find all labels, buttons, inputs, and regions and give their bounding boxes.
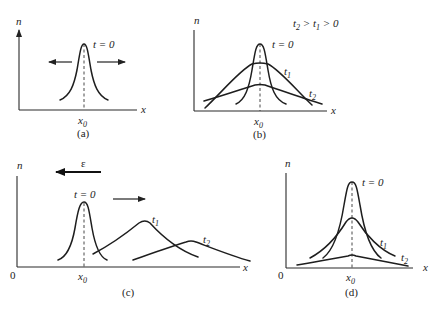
panel-c: n x 0 ε t = 0 t1 t2 x0 (c) [10, 157, 250, 299]
x-axis-label: x [242, 261, 248, 273]
caption-b: (b) [253, 128, 266, 141]
curve-t2 [133, 241, 250, 261]
panel-d: n x 0 t = 0 t1 t2 x0 (d) [278, 157, 428, 299]
origin-label: 0 [10, 269, 16, 281]
curve-t1 [205, 63, 312, 108]
caption-c: (c) [122, 286, 135, 299]
carrier-diffusion-drift-figure: n x t = 0 x0 (a) n x t2 > t1 > 0 t = 0 t… [0, 0, 440, 310]
x0-label: x0 [345, 271, 355, 286]
x-axis-label: x [330, 104, 336, 116]
electric-field-label: ε [81, 157, 86, 169]
label-t2: t2 [401, 251, 408, 266]
panel-a: n x t = 0 x0 (a) [16, 15, 146, 140]
y-axis-label: n [16, 15, 22, 27]
label-t0: t = 0 [362, 176, 384, 188]
x0-label: x0 [77, 270, 87, 285]
origin-label: 0 [278, 269, 284, 281]
curve-t0 [58, 202, 107, 260]
curve-t2 [204, 85, 322, 105]
y-axis-label: n [285, 157, 291, 169]
x-axis-label: x [422, 261, 428, 273]
x-axis-label: x [140, 103, 146, 115]
label-t0: t = 0 [272, 38, 294, 50]
caption-a: (a) [77, 127, 90, 140]
y-axis-label: n [17, 159, 23, 171]
label-t0: t = 0 [74, 188, 96, 200]
time-condition: t2 > t1 > 0 [293, 17, 339, 32]
panel-b: n x t2 > t1 > 0 t = 0 t1 t2 x0 (b) [194, 14, 339, 141]
label-t0: t = 0 [93, 38, 115, 50]
curve-t1 [93, 221, 198, 257]
curve-t0 [236, 44, 286, 104]
y-axis-label: n [194, 14, 200, 26]
caption-d: (d) [345, 286, 358, 299]
